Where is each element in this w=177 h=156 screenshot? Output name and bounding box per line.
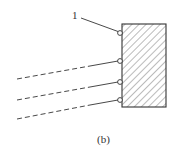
node-2-circle-icon [118,59,123,64]
node-3-circle-icon [118,80,123,85]
dashed-line-3 [17,105,90,119]
dashed-line-2 [17,87,90,100]
diagram-canvas [0,0,177,156]
incoming-lines [17,61,118,119]
solid-line-3 [90,100,118,105]
solid-line-1 [90,61,118,66]
callout-leader-line [81,18,118,32]
node-4-circle-icon [118,98,123,103]
hatched-block [122,24,166,107]
dashed-line-1 [17,66,90,79]
callout-label-1: 1 [72,10,78,21]
solid-line-2 [90,82,118,87]
node-1-circle-icon [118,31,123,36]
figure-caption: (b) [97,134,110,145]
